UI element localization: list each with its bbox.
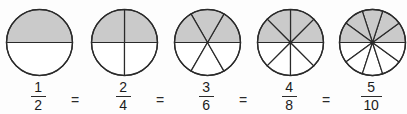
pie-svg xyxy=(5,8,74,77)
pie-svg xyxy=(173,8,242,77)
fraction-glyph: 4 8 xyxy=(282,80,297,113)
pie-chart-one-half xyxy=(5,8,74,77)
fraction-denominator: 4 xyxy=(116,98,131,113)
pie-svg xyxy=(256,8,325,77)
pie-slice-unshaded xyxy=(7,43,73,76)
fraction-glyph: 3 6 xyxy=(199,80,214,113)
fraction-numerator: 5 xyxy=(361,80,382,95)
fraction-denominator: 8 xyxy=(282,98,297,113)
fraction-numerator: 2 xyxy=(116,80,131,95)
equals-sign-3: = xyxy=(233,92,253,108)
equivalent-fractions-figure: 1 2 = 2 4 = 3 6 = 4 xyxy=(0,0,407,114)
fraction-four-eighths: 4 8 xyxy=(254,80,324,114)
pie-svg xyxy=(90,8,159,77)
equals-sign-1: = xyxy=(65,92,85,108)
fraction-three-sixths: 3 6 xyxy=(171,80,241,114)
pie-svg xyxy=(338,8,407,77)
fraction-numerator: 3 xyxy=(199,80,214,95)
fraction-denominator: 6 xyxy=(199,98,214,113)
equals-sign-4: = xyxy=(316,92,336,108)
equals-sign-2: = xyxy=(150,92,170,108)
pie-chart-four-eighths xyxy=(256,8,325,77)
pie-slice-shaded xyxy=(7,10,73,43)
fraction-equation-row: 1 2 = 2 4 = 3 6 = 4 xyxy=(0,80,407,114)
pie-circle-row xyxy=(0,0,407,86)
fraction-one-half: 1 2 xyxy=(3,80,73,114)
fraction-numerator: 4 xyxy=(282,80,297,95)
fraction-numerator: 1 xyxy=(31,80,46,95)
fraction-five-tenths: 5 10 xyxy=(336,80,406,114)
fraction-two-fourths: 2 4 xyxy=(88,80,158,114)
fraction-denominator: 2 xyxy=(31,98,46,113)
fraction-glyph: 1 2 xyxy=(31,80,46,113)
pie-chart-three-sixths xyxy=(173,8,242,77)
pie-chart-five-tenths xyxy=(338,8,407,77)
fraction-glyph: 2 4 xyxy=(116,80,131,113)
fraction-glyph: 5 10 xyxy=(361,80,382,113)
pie-chart-two-fourths xyxy=(90,8,159,77)
fraction-denominator: 10 xyxy=(361,98,382,113)
